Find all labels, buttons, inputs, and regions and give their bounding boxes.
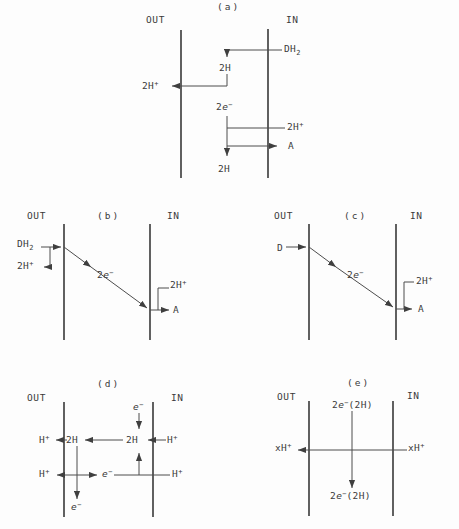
panel-a-in-label: IN [286,15,299,25]
panel-d-in-label: IN [171,393,184,403]
panel-a-label-2e: 2e− [216,102,232,113]
panel-c-arrow-electron-diagonal-1-icon [309,247,336,267]
panel-d-label-hplus-in-top: H+ [167,435,177,446]
panel-c-label-acceptor: A [418,304,424,314]
panel-e-title: (e) [347,378,370,388]
panel-b-arrow-electron-diagonal-1-icon [64,247,91,267]
panel-c-label-2e: 2e− [347,270,363,281]
panel-c-in-label: IN [410,211,423,221]
panel-b-bracket-2hplus-in [158,288,169,310]
panel-b-label-2hplus-in: 2H+ [170,280,186,291]
diagram-lines [0,0,459,529]
panel-d-label-2h-left: 2H [66,435,78,445]
panel-b-label-acceptor: A [173,305,179,315]
panel-a-label-2hplus-out: 2H+ [142,81,158,92]
panel-c-label-donor: D [277,243,283,253]
panel-b-title: (b) [97,211,120,221]
panel-a-label-acceptor: A [288,141,294,151]
panel-d-label-2h-right: 2H [126,435,138,445]
panel-a-arrow-dh2-entry-icon [227,50,282,57]
panel-d-label-hplus-out-bottom: H+ [39,469,49,480]
panel-c-title: (c) [344,211,367,221]
panel-a-label-2h-top: 2H [219,63,231,73]
panel-b-label-2hplus-out: 2H+ [17,261,33,272]
panel-d-label-e-bottom: e− [71,502,81,513]
panel-c-arrow-electron-diagonal-2-icon [336,267,393,307]
panel-b-label-2e: 2e− [97,270,113,281]
panel-a-label-2hplus-in: 2H+ [287,122,303,133]
panel-b-in-label: IN [167,211,180,221]
panel-e-label-xhplus-out: xH+ [275,443,291,454]
panel-a-title: (a) [217,2,240,12]
panel-d-out-label: OUT [27,393,46,403]
panel-e-label-xhplus-in: xH+ [408,443,424,454]
panel-e-out-label: OUT [277,392,296,402]
panel-c-out-label: OUT [274,211,293,221]
panel-b-out-label: OUT [27,211,46,221]
figure-redox-loop-diagrams: (a) OUT IN DH2 2H 2H+ 2e− 2H+ A 2H (b) O… [0,0,459,529]
panel-d-label-hplus-out-top: H+ [39,435,49,446]
panel-d-label-e-mid: e− [102,469,112,480]
panel-d-label-hplus-in-bottom: H+ [172,469,182,480]
panel-e-in-label: IN [407,391,420,401]
panel-a-out-label: OUT [146,15,165,25]
panel-c-label-2hplus-in: 2H+ [416,276,432,287]
panel-b-label-dh2: DH2 [17,239,33,250]
panel-c-bracket-2hplus-in [404,282,414,309]
panel-e-label-2e-top: 2e−(2H) [332,400,373,411]
panel-d-title: (d) [97,379,120,389]
panel-d-label-e-top: e− [133,402,143,413]
panel-e-label-2e-bottom: 2e−(2H) [330,491,371,502]
panel-a-label-dh2: DH2 [284,44,300,55]
panel-a-label-2h-bottom: 2H [218,164,230,174]
panel-b-arrow-2hplus-out-icon [44,247,50,267]
